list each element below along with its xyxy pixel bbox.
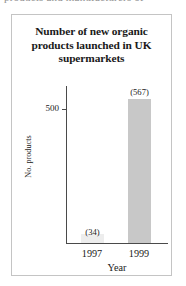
figure-box: Number of new organic products launched … [11,14,172,276]
y-axis-tick-label-500: 500 [30,103,59,113]
plot-area: 500 No. products (34) (567) 1997 1999 Ye… [12,15,171,275]
x-axis-title: Year [66,262,168,273]
bar-value-label-1999: (567) [123,87,156,97]
x-axis-tick-label-1997: 1997 [74,248,110,259]
x-axis-tick-label-1999: 1999 [121,248,157,259]
y-axis-line [66,86,67,244]
bar-1999 [128,99,151,243]
x-axis-line [66,243,168,244]
bar-value-label-1997: (34) [76,227,109,237]
y-axis-tick-mark [62,109,67,110]
cutoff-text-line: products and manufacturers of [4,0,144,3]
y-axis-title: No. products [24,122,33,192]
page-text-sliver: products and manufacturers of [0,0,186,9]
